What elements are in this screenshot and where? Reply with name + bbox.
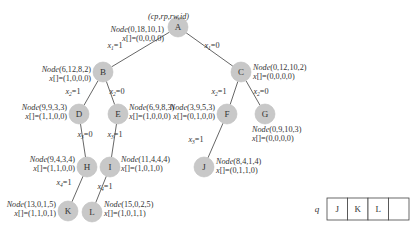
- queue: q JKL: [315, 198, 409, 220]
- node-x-D: x[]=(1,1,0,0): [24, 112, 67, 121]
- node-letter: B: [100, 67, 106, 77]
- node-info-G: Node(0,9,10,3): [251, 125, 302, 134]
- edge-label-C-F: x2=1: [210, 87, 226, 97]
- node-letter: C: [238, 67, 244, 77]
- tree-node-F: F: [217, 104, 237, 124]
- node-letter: I: [109, 162, 112, 172]
- node-x-C: x[]=(0,0,0,0): [252, 72, 295, 81]
- edge-C-F: [230, 81, 238, 104]
- node-info-C: Node(0,12,10,2): [252, 63, 307, 72]
- tree-node-G: G: [255, 104, 275, 124]
- edge-label-H-K: x4=1: [55, 178, 71, 188]
- node-x-G: x[]=(0,0,0,0): [251, 134, 294, 143]
- edge-label-C-G: x2=0: [252, 87, 268, 97]
- edge-H-K: [72, 176, 83, 202]
- tree-node-L: L: [82, 202, 102, 222]
- edge-label-F-J: x3=1: [187, 135, 203, 145]
- queue-cell: K: [348, 198, 369, 220]
- tree-node-K: K: [58, 201, 78, 221]
- node-letter: A: [175, 22, 182, 32]
- node-letter: K: [65, 206, 72, 216]
- node-letter: E: [115, 109, 121, 119]
- tree-node-D: D: [69, 104, 89, 124]
- queue-cell: J: [327, 198, 348, 220]
- queue-cell-text: L: [376, 204, 382, 214]
- edge-label-E-I: x3=1: [106, 130, 122, 140]
- edge-E-I: [111, 124, 116, 157]
- node-info-E: Node(6,9,8,3): [128, 103, 175, 112]
- node-x-I: x[]=(1,0,1,0): [120, 164, 163, 173]
- node-letter: D: [76, 109, 83, 119]
- node-info-I: Node(11,4,4,4): [120, 155, 170, 164]
- tree-node-C: C: [231, 62, 251, 82]
- search-tree-diagram: x1=1x1=0x2=1x2=0x2=1x2=0x3=0x3=1x3=1x4=1…: [0, 0, 420, 234]
- edge-label-B-D: x2=1: [64, 87, 80, 97]
- node-x-A: x[]=(0,0,0,0): [121, 34, 164, 43]
- node-x-H: x[]=(1,1,0,0): [32, 164, 75, 173]
- queue-cell-text: K: [355, 204, 362, 214]
- tree-node-J: J: [194, 157, 214, 177]
- tree-node-H: H: [77, 157, 97, 177]
- node-x-E: x[]=(1,0,0,0): [128, 112, 171, 121]
- edge-label-A-C: x1=0: [203, 41, 219, 51]
- edge-F-J: [208, 123, 223, 158]
- node-x-K: x[]=(1,1,0,1): [13, 209, 56, 218]
- node-letter: L: [89, 207, 95, 217]
- node-info-L: Node(15,0,2,5): [103, 200, 154, 209]
- edge-label-D-H: x3=0: [76, 130, 92, 140]
- node-info-H: Node(9,4,3,4): [29, 155, 76, 164]
- header-label: (cp,rp,rw,id): [148, 12, 189, 21]
- node-letter: G: [262, 109, 269, 119]
- tree-node-E: E: [108, 104, 128, 124]
- node-letter: F: [224, 109, 229, 119]
- node-info-B: Node(6,12,8,2): [41, 65, 92, 74]
- node-info-F: Node(3,9,5,3): [169, 103, 216, 112]
- node-x-L: x[]=(1,0,1,1): [103, 209, 146, 218]
- node-letter: J: [202, 162, 206, 172]
- edge-label-I-L: x4=1: [96, 182, 112, 192]
- edge-label-A-B: x1=1: [106, 41, 122, 51]
- node-x-J: x[]=(0,1,1,0): [215, 166, 258, 175]
- tree-node-I: I: [100, 157, 120, 177]
- node-info-D: Node(9,9,3,3): [21, 103, 68, 112]
- queue-cell: [389, 198, 410, 220]
- tree-node-B: B: [93, 62, 113, 82]
- queue-cell-text: J: [335, 204, 339, 214]
- node-info-J: Node(8,4,1,4): [215, 157, 262, 166]
- queue-label: q: [315, 204, 320, 214]
- node-info-K: Node(13,0,1,5): [6, 200, 57, 209]
- queue-cell-box: [389, 198, 410, 220]
- node-info-A: Node(0,18,10,1): [110, 25, 165, 34]
- edge-B-D: [84, 81, 98, 106]
- edge-D-H: [80, 124, 85, 157]
- node-letter: H: [84, 162, 91, 172]
- node-x-F: x[]=(0,1,0,0): [172, 112, 215, 121]
- node-x-B: x[]=(1,0,0,0): [48, 74, 91, 83]
- queue-cell: L: [368, 198, 389, 220]
- edge-label-B-E: x2=0: [108, 87, 124, 97]
